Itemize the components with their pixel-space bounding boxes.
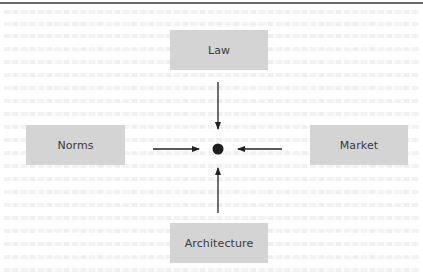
diagram-canvas: Law Norms Market Architecture xyxy=(0,0,423,278)
center-dot-icon xyxy=(213,144,224,155)
arrows-layer xyxy=(0,0,423,278)
